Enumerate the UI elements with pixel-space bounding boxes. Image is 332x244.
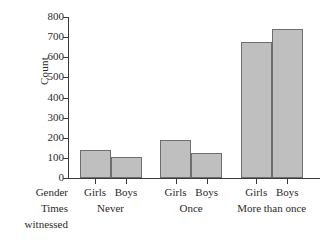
y-axis-tick-label: 100: [30, 152, 64, 163]
x-axis-tick-mark: [287, 179, 288, 184]
y-axis-tick-label: 400: [30, 92, 64, 103]
bar: [80, 150, 111, 178]
x-axis-tick-mark: [207, 179, 208, 184]
x-axis-tick-mark: [126, 179, 127, 184]
y-axis-tick-label: 700: [30, 31, 64, 42]
group-tick-label: More than once: [222, 202, 322, 215]
axis-row-header-times: Times: [2, 202, 68, 215]
bar: [160, 140, 191, 178]
gender-tick-label: Boys: [267, 186, 307, 199]
axis-row-header-witnessed: witnessed: [2, 218, 68, 231]
plot-area: [68, 17, 320, 178]
gender-tick-label: Boys: [187, 186, 227, 199]
gender-tick-label: Boys: [106, 186, 146, 199]
y-axis-tick-label: 800: [30, 11, 64, 22]
bar: [191, 153, 222, 178]
y-axis-tick-label: 500: [30, 71, 64, 82]
grouped-bar-chart: Count 8007006005004003002001000 Gender T…: [0, 0, 332, 244]
x-axis-tick-mark: [95, 179, 96, 184]
y-axis-tick-label: 300: [30, 112, 64, 123]
y-axis-tick-label: 200: [30, 132, 64, 143]
x-axis-line: [68, 178, 320, 179]
bar: [241, 42, 272, 178]
axis-row-header-gender: Gender: [2, 186, 68, 199]
x-axis-tick-mark: [256, 179, 257, 184]
x-axis-tick-mark: [176, 179, 177, 184]
bar: [272, 29, 303, 178]
y-axis-tick-label: 0: [30, 172, 64, 183]
y-axis-tick-label: 600: [30, 51, 64, 62]
bar: [111, 157, 142, 178]
